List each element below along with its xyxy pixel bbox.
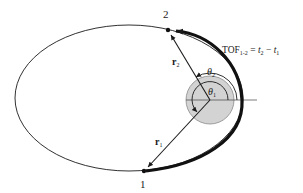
orbit-diagram: 2 1 r2 r1 θ2 θ1 TOF1-2 = t2 − t1 bbox=[0, 0, 303, 193]
point-2-marker bbox=[166, 28, 170, 32]
point-1-label: 1 bbox=[140, 178, 146, 190]
point-2-label: 2 bbox=[163, 8, 169, 20]
r2-label: r2 bbox=[172, 56, 179, 68]
point-1-marker bbox=[142, 169, 146, 173]
tof-equation: TOF1-2 = t2 − t1 bbox=[222, 45, 279, 56]
r1-label: r1 bbox=[155, 136, 162, 148]
theta2-label: θ2 bbox=[207, 66, 215, 78]
